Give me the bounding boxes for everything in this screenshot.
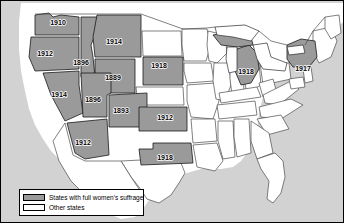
label-new-york: 1917 <box>295 65 311 72</box>
label-idaho: 1896 <box>73 59 89 66</box>
lake-ontario <box>287 45 305 55</box>
label-montana: 1914 <box>106 38 122 45</box>
map-legend: States with full women's suffrage Other … <box>19 189 144 216</box>
legend-item-suffrage: States with full women's suffrage <box>23 193 140 202</box>
label-colorado: 1893 <box>113 107 129 114</box>
state-iowa <box>184 63 214 83</box>
label-michigan: 1918 <box>238 68 254 75</box>
label-oregon: 1912 <box>37 50 53 57</box>
state-alabama <box>234 119 251 157</box>
label-kansas: 1912 <box>157 114 173 121</box>
legend-label-suffrage: States with full women's suffrage <box>49 194 143 201</box>
legend-label-other: Other states <box>49 204 84 211</box>
label-arizona: 1912 <box>75 139 91 146</box>
legend-item-other: Other states <box>23 203 140 212</box>
women-suffrage-map-figure: 1910 1912 1896 1914 1918 1889 1914 1896 … <box>0 0 344 223</box>
label-oklahoma: 1918 <box>157 154 173 161</box>
state-maryland-delaware <box>289 77 305 89</box>
state-montana <box>93 15 141 57</box>
label-utah: 1896 <box>85 96 101 103</box>
label-washington: 1910 <box>50 19 66 26</box>
state-louisiana <box>193 143 223 171</box>
legend-swatch-suffrage <box>23 194 45 201</box>
label-nevada: 1914 <box>51 91 67 98</box>
legend-swatch-other <box>23 204 45 211</box>
state-north-dakota <box>142 31 182 56</box>
state-arkansas <box>191 119 217 143</box>
label-wyoming: 1889 <box>105 74 121 81</box>
label-south-dakota: 1918 <box>151 62 167 69</box>
